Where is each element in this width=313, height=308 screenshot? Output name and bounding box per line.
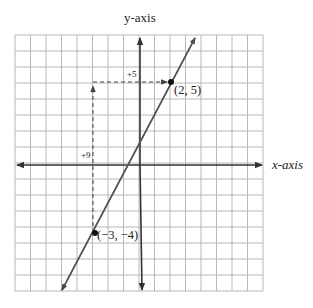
point-label-2-5: (2, 5) xyxy=(174,83,201,98)
coordinate-plane xyxy=(0,0,313,308)
run-label: +5 xyxy=(127,69,137,79)
x-axis-label: x-axis xyxy=(272,157,303,173)
rise-label: +9 xyxy=(81,150,91,160)
y-axis-label: y-axis xyxy=(124,10,156,26)
y-axis-line xyxy=(140,165,142,290)
point-label-neg3-neg4: (−3, −4) xyxy=(97,228,138,243)
grid xyxy=(15,35,263,291)
